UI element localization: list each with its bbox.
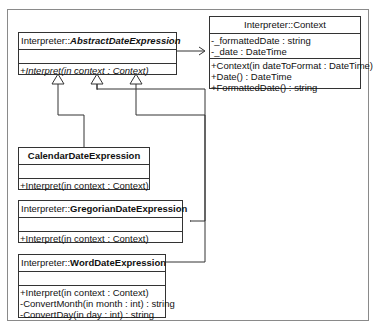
class-header: Interpreter::AbstractDateExpression [19,33,176,50]
operation: -ConvertDay(in day : int) : string [20,309,164,320]
class-abstract-date-expression[interactable]: Interpreter::AbstractDateExpression +Int… [18,32,177,75]
operations-compartment: +Interpret(in context : Context) [19,179,149,192]
operations-compartment: +Interpret(in context : Context) [19,232,182,245]
class-header: Interpreter::Context [210,17,360,34]
operation: +Context(in dateToFormat : DateTime) [211,60,359,71]
operation: +Date() : DateTime [211,71,359,82]
class-name: Context [293,19,326,30]
class-name: GregorianDateExpression [70,203,187,214]
operations-compartment: +Context(in dateToFormat : DateTime) +Da… [210,59,360,94]
class-name: AbstractDateExpression [70,35,180,46]
attribute: -_date : DateTime [211,46,359,57]
class-header: CalendarDateExpression [19,148,149,165]
operation: +Interpret(in context : Context) [20,287,164,298]
class-word-date-expression[interactable]: Interpreter::WordDateExpression +Interpr… [18,254,166,318]
class-header: Interpreter::WordDateExpression [19,255,165,272]
class-name: CalendarDateExpression [28,150,140,161]
operation: +Interpret(in context : Context) [20,180,148,191]
attributes-compartment: -_formattedDate : string -_date : DateTi… [210,34,360,59]
attributes-compartment [19,50,176,64]
class-gregorian-date-expression[interactable]: Interpreter::GregorianDateExpression +In… [18,200,183,243]
class-context[interactable]: Interpreter::Context -_formattedDate : s… [209,16,361,89]
operation: +Interpret(in context : Context) [20,233,181,244]
class-calendar-date-expression[interactable]: CalendarDateExpression +Interpret(in con… [18,147,150,190]
operation: +FormattedDate() : string [211,82,359,93]
attributes-compartment [19,165,149,179]
operation: +Interpret(in context : Context) [20,65,175,76]
operations-compartment: +Interpret(in context : Context) -Conver… [19,286,165,321]
operation: -ConvertMonth(in month : int) : string [20,298,164,309]
operations-compartment: +Interpret(in context : Context) [19,64,176,77]
attributes-compartment [19,218,182,232]
attributes-compartment [19,272,165,286]
class-name: WordDateExpression [70,257,166,268]
class-header: Interpreter::GregorianDateExpression [19,201,182,218]
attribute: -_formattedDate : string [211,35,359,46]
